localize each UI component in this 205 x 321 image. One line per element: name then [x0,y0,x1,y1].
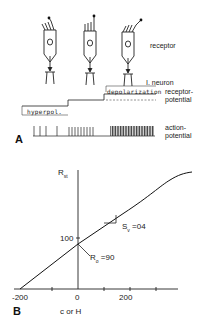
response-curve [20,172,192,289]
dense-spikes [110,126,154,136]
hyperpolarization-label: hyperpol. [27,108,62,115]
panel-a-label: A [15,133,23,145]
receptor-label: receptor [150,42,176,49]
plot-axes [14,170,178,291]
neuron-label: I. neuron [146,79,174,86]
action-potential-label-2: potential [165,132,191,139]
slope-triangle [104,215,116,223]
receptor-cell-1 [42,18,56,84]
x-tick-200: 200 [119,293,132,302]
x-tick-0: 0 [75,293,79,302]
slope-annotation: Sv =04 [122,222,146,233]
action-potential-label-1: action- [165,124,186,131]
x-axis-label: c or H [60,307,81,316]
y-tick-100: 100 [60,234,73,243]
x-tick-neg200: -200 [12,293,28,302]
receptor-potential-label-2: potential [165,96,191,103]
receptor-cell-2 [84,17,96,85]
y-axis-label: Rst [58,168,68,179]
depolarization-label: depolarization [107,88,162,95]
intercept-annotation: Ro =90 [90,253,114,264]
receptor-potential-label-1: receptor- [165,88,193,95]
receptor-cell-3 [122,21,140,86]
panel-b-label: B [13,305,21,317]
